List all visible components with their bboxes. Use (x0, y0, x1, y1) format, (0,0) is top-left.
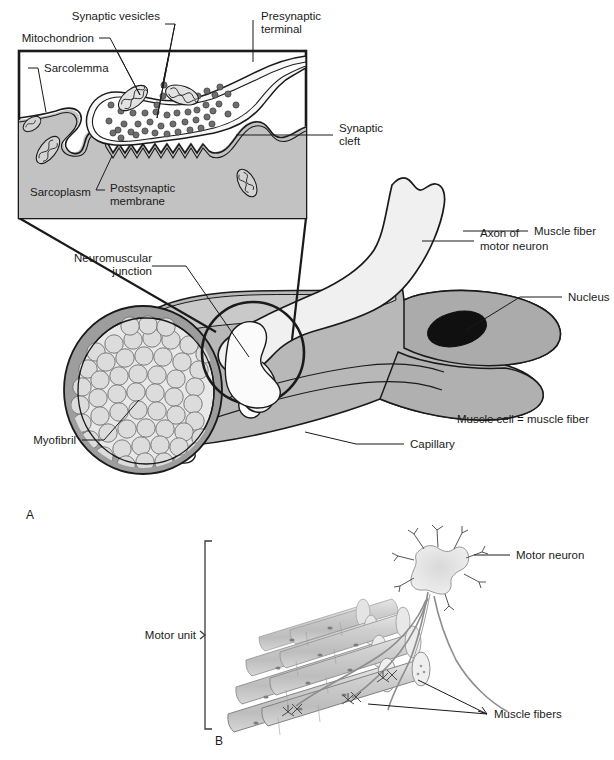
label-synaptic-cleft-line2: cleft (339, 135, 361, 147)
label-axon-line1: Axon of (480, 227, 520, 239)
label-capillary: Capillary (410, 438, 455, 450)
label-muscle-fibers: Muscle fibers (494, 708, 562, 720)
label-synaptic-cleft-line1: Synaptic (339, 122, 383, 134)
fiber-e2-cap (412, 652, 430, 686)
label-mitochondrion: Mitochondrion (22, 32, 94, 44)
label-postsynaptic-membrane-line1: Postsynaptic (110, 182, 175, 194)
panel-label-a: A (26, 508, 34, 522)
label-axon-line2: motor neuron (480, 240, 548, 252)
label-motor-unit: Motor unit (145, 629, 197, 641)
label-postsynaptic-membrane-line2: membrane (110, 195, 165, 207)
myofibril-cross-section (64, 306, 222, 474)
label-muscle-fiber: Muscle fiber (534, 225, 596, 237)
label-synaptic-vesicles: Synaptic vesicles (72, 10, 160, 22)
panel-label-b: B (215, 734, 223, 748)
label-presynaptic-terminal-line2: terminal (261, 23, 302, 35)
label-muscle-cell-equals: Muscle cell = muscle fiber (457, 413, 589, 425)
label-myofibril: Myofibril (33, 434, 76, 446)
label-sarcolemma: Sarcolemma (44, 62, 109, 74)
label-motor-neuron: Motor neuron (516, 549, 584, 561)
figure-root: Neuromuscular junction Axon of motor neu… (0, 0, 614, 760)
label-neuromuscular-junction-line1: Neuromuscular (74, 252, 152, 264)
label-presynaptic-terminal-line1: Presynaptic (261, 10, 321, 22)
label-nucleus: Nucleus (568, 291, 610, 303)
label-sarcoplasm: Sarcoplasm (30, 186, 91, 198)
label-neuromuscular-junction-line2: junction (111, 265, 152, 277)
